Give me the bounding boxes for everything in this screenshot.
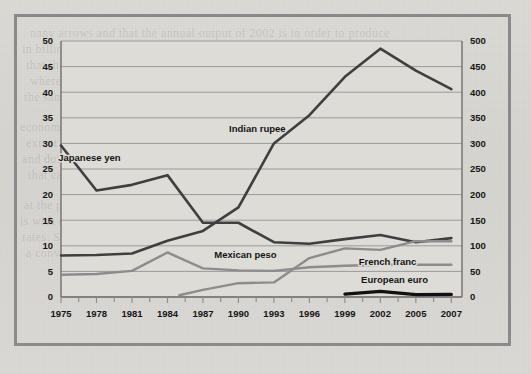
y-axis-right-tick-label: 100 (470, 240, 486, 251)
x-axis-tick-label: 1990 (228, 308, 249, 319)
x-axis-tick-label: 1993 (263, 308, 284, 319)
x-axis-tick-label: 1996 (299, 308, 320, 319)
y-axis-left-tick-label: 45 (42, 61, 53, 72)
x-axis-tick-label: 1987 (192, 308, 213, 319)
y-axis-right-tick-label: 200 (470, 189, 486, 200)
y-axis-right-tick-label: 150 (470, 215, 486, 226)
series-label-indian-rupee: Indian rupee (229, 123, 285, 134)
y-axis-left-tick-label: 0 (48, 291, 53, 302)
y-axis-left-tick-label: 20 (42, 189, 53, 200)
y-axis-right-tick-label: 50 (470, 266, 481, 277)
series-label-japanese-yen: Japanese yen (58, 152, 121, 163)
x-axis-tick-label: 1975 (50, 308, 72, 319)
series-label-european-euro: European euro (361, 274, 428, 285)
y-axis-right-tick-label: 300 (470, 138, 486, 149)
y-axis-right-tick-label: 450 (470, 61, 486, 72)
y-axis-left-tick-label: 10 (42, 240, 53, 251)
series-label-french-franc: French franc (359, 256, 417, 267)
y-axis-left-tick-label: 25 (42, 163, 53, 174)
y-axis-right-tick-label: 500 (470, 35, 486, 46)
x-axis-tick-label: 1999 (334, 308, 355, 319)
x-axis-tick-label: 1984 (157, 308, 179, 319)
y-axis-right-tick-label: 250 (470, 163, 486, 174)
x-axis-tick-label: 2007 (441, 308, 462, 319)
x-axis-tick-label: 1981 (121, 308, 143, 319)
y-axis-left-tick-label: 50 (42, 35, 53, 46)
y-axis-left-tick-label: 40 (42, 87, 53, 98)
y-axis-right-tick-label: 0 (470, 291, 475, 302)
y-axis-right-tick-label: 400 (470, 87, 486, 98)
y-axis-right-tick-label: 350 (470, 112, 486, 123)
x-axis-tick-label: 2002 (370, 308, 391, 319)
series-label-mexican-peso: Mexican peso (214, 249, 276, 260)
y-axis-left-tick-label: 5 (48, 266, 54, 277)
line-chart: 0510152025303540455005010015020025030035… (17, 17, 508, 343)
y-axis-left-tick-label: 30 (42, 138, 53, 149)
figure-frame: 0510152025303540455005010015020025030035… (14, 14, 511, 346)
y-axis-left-tick-label: 15 (42, 215, 53, 226)
y-axis-left-tick-label: 35 (42, 112, 53, 123)
x-axis-tick-label: 1978 (86, 308, 107, 319)
x-axis-tick-label: 2005 (405, 308, 427, 319)
